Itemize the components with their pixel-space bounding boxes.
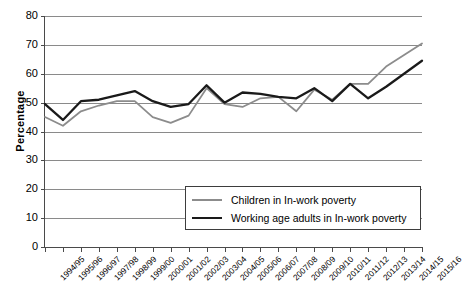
x-tick-mark-1 — [63, 247, 64, 252]
chart-legend: Children in In-work poverty Working age … — [185, 186, 421, 230]
x-tick-mark-13 — [278, 247, 279, 252]
x-tick-mark-15 — [314, 247, 315, 252]
series-line-adults — [45, 61, 422, 120]
legend-item-children: Children in In-work poverty — [192, 191, 414, 209]
y-tick-label-0: 0 — [12, 240, 38, 252]
y-tick-label-10: 10 — [12, 211, 38, 223]
x-tick-mark-12 — [260, 247, 261, 252]
series-line-children — [45, 43, 422, 125]
x-tick-mark-14 — [296, 247, 297, 252]
x-tick-mark-17 — [350, 247, 351, 252]
legend-label-adults: Working age adults in In-work poverty — [231, 212, 406, 224]
x-tick-mark-0 — [45, 247, 46, 252]
legend-swatch-children-icon — [192, 199, 222, 201]
y-tick-label-60: 60 — [12, 67, 38, 79]
x-tick-mark-16 — [332, 247, 333, 252]
x-tick-mark-11 — [242, 247, 243, 252]
x-tick-mark-7 — [171, 247, 172, 252]
y-tick-label-20: 20 — [12, 182, 38, 194]
legend-swatch-adults-icon — [192, 217, 222, 219]
y-tick-label-50: 50 — [12, 96, 38, 108]
x-tick-mark-4 — [117, 247, 118, 252]
x-tick-mark-6 — [153, 247, 154, 252]
x-tick-mark-21 — [422, 247, 423, 252]
x-tick-mark-19 — [386, 247, 387, 252]
x-tick-mark-3 — [99, 247, 100, 252]
x-tick-mark-8 — [189, 247, 190, 252]
y-tick-label-40: 40 — [12, 125, 38, 137]
legend-label-children: Children in In-work poverty — [231, 194, 356, 206]
x-tick-mark-5 — [135, 247, 136, 252]
x-tick-mark-20 — [404, 247, 405, 252]
x-tick-mark-18 — [368, 247, 369, 252]
x-tick-mark-10 — [225, 247, 226, 252]
y-tick-label-70: 70 — [12, 38, 38, 50]
gridline-0 — [45, 247, 422, 248]
y-tick-label-30: 30 — [12, 153, 38, 165]
x-tick-mark-9 — [207, 247, 208, 252]
legend-item-adults: Working age adults in In-work poverty — [192, 209, 414, 227]
y-tick-label-80: 80 — [12, 9, 38, 21]
x-tick-mark-2 — [81, 247, 82, 252]
